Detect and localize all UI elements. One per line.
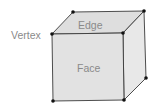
vertex-back-top-left [71, 10, 75, 14]
face-label: Face [77, 62, 101, 74]
vertex-front-bottom-left [51, 99, 55, 103]
vertex-back-bottom-right [144, 76, 148, 80]
vertex-front-bottom-right [122, 98, 126, 102]
cube-diagram: Vertex Edge Face [0, 0, 156, 108]
vertex-front-top-left [50, 32, 54, 36]
vertex-front-top-right [121, 31, 125, 35]
vertex-label: Vertex [11, 29, 42, 41]
edge-label: Edge [78, 19, 103, 31]
vertex-back-top-right [142, 9, 146, 13]
